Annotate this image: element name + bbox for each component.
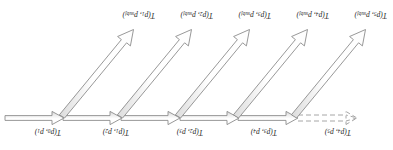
label-transition-p0-p1: T(p0, p1) — [35, 128, 61, 137]
label-transition-p2-psubj: T(p2, psubj) — [180, 11, 213, 20]
label-transition-p1-p2: T(p1, p2) — [103, 128, 129, 137]
diagonal-arrow-5 — [59, 30, 133, 119]
label-transition-p4-p5: T(p4, p5) — [325, 128, 351, 137]
horizontal-arrow-group — [5, 111, 298, 124]
label-transition-p5-psubj: T(p5, psubj) — [354, 11, 387, 20]
horizontal-arrow-5 — [5, 111, 64, 124]
label-transition-p3-p4: T(p3, p4) — [251, 128, 277, 137]
horizontal-arrow-3 — [121, 111, 180, 124]
horizontal-arrow-2 — [180, 111, 239, 124]
diagonal-arrow-group — [59, 30, 365, 119]
dashed-arrow — [298, 112, 357, 125]
horizontal-arrow-4 — [63, 111, 122, 124]
horizontal-arrow-1 — [238, 111, 298, 124]
label-transition-p3-psubj: T(p3, psubj) — [238, 11, 271, 20]
label-transition-p4-psubj: T(p4, psubj) — [296, 11, 329, 20]
label-transition-p1-psubj: T(p1, psubj) — [122, 11, 155, 20]
diagram-canvas: T(p0, p1) T(p1, p2) T(p2, p3) T(p3, p4) … — [0, 0, 393, 150]
label-transition-p2-p3: T(p2, p3) — [177, 128, 203, 137]
